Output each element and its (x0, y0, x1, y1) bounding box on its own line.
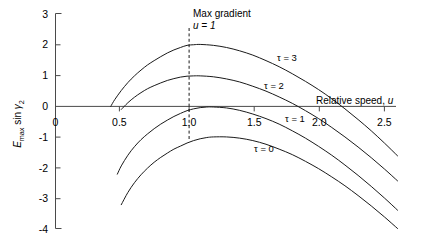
x-tick-label-1p5: 1.5 (247, 116, 262, 128)
y-tick-labels: 3 2 1 0 -1 -2 -3 -4 (39, 8, 49, 235)
y-tick-label-neg2: -2 (39, 162, 48, 174)
line-chart-svg: 3 2 1 0 -1 -2 -3 -4 0 0.5 1.0 1.5 2.0 2.… (0, 0, 424, 244)
y-tick-label-neg3: -3 (39, 192, 48, 204)
y-tick-label-2: 2 (42, 38, 48, 50)
y-tick-label-3: 3 (42, 8, 48, 20)
curve-label-tau-2: τ = 2 (264, 80, 284, 91)
max-gradient-annotation: Max gradient u = 1 (193, 8, 251, 31)
y-tick-label-neg1: -1 (39, 131, 48, 143)
y-tick-label-0: 0 (42, 100, 48, 112)
series-group (111, 44, 398, 228)
curve-label-tau-3: τ = 3 (277, 52, 297, 63)
curve-label-tau-0: τ = 0 (254, 143, 274, 154)
y-tick-label-1: 1 (42, 69, 48, 81)
y-axis-title: Emax sin γ2 (12, 100, 26, 148)
curve-label-tau-1: τ = 1 (285, 113, 305, 124)
max-gradient-line2: u = 1 (193, 20, 216, 31)
chart-figure: 3 2 1 0 -1 -2 -3 -4 0 0.5 1.0 1.5 2.0 2.… (0, 0, 424, 244)
x-tick-label-2p0: 2.0 (312, 116, 327, 128)
x-tick-label-1p0: 1.0 (182, 116, 197, 128)
y-axis-title-group: Emax sin γ2 (12, 100, 26, 148)
x-tick-label-2p5: 2.5 (377, 116, 392, 128)
x-axis-title-text: Relative speed, (316, 95, 388, 106)
max-gradient-line1: Max gradient (193, 8, 251, 19)
y-axis-title-sub-2: 2 (17, 100, 26, 104)
x-axis-title-var: u (388, 95, 394, 106)
x-tick-label-0p5: 0.5 (112, 116, 127, 128)
x-tick-label-0: 0 (53, 116, 59, 128)
y-tick-label-neg4: -4 (39, 223, 48, 235)
x-tick-labels: 0 0.5 1.0 1.5 2.0 2.5 (53, 116, 392, 128)
y-axis-title-sub-max: max (17, 127, 26, 141)
x-axis-title: Relative speed, u (316, 95, 394, 106)
curve-tau-2 (121, 76, 397, 181)
